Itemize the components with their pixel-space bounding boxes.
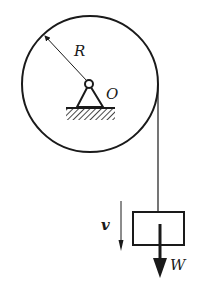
radius-label: R	[73, 42, 85, 60]
ground-hatch	[66, 109, 115, 120]
velocity-label: v	[101, 216, 110, 234]
velocity-arrow	[119, 201, 124, 251]
pulley-diagram: R O W v	[0, 0, 198, 292]
weight-label: W	[170, 256, 187, 274]
center-label: O	[106, 85, 118, 103]
pivot-pin	[85, 80, 93, 88]
